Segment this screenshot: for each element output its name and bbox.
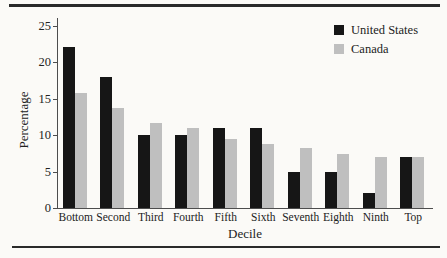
- legend-swatch-canada: [334, 44, 344, 54]
- y-tick-label: 5: [25, 165, 51, 179]
- bar-canada-bottom: [75, 93, 87, 208]
- bar-canada-fourth: [187, 128, 199, 208]
- bar-united-states-bottom: [63, 47, 75, 208]
- legend-label: United States: [351, 23, 418, 37]
- legend: United StatesCanada: [334, 23, 418, 61]
- bar-canada-fifth: [225, 139, 237, 208]
- bar-canada-third: [150, 123, 162, 208]
- x-axis-line: [57, 208, 433, 209]
- bar-canada-top: [412, 157, 424, 208]
- y-tick: [53, 26, 57, 27]
- bar-united-states-fifth: [213, 128, 225, 208]
- y-tick-label: 10: [25, 128, 51, 142]
- y-tick-label: 20: [25, 55, 51, 69]
- legend-item-canada: Canada: [334, 42, 418, 56]
- y-tick: [53, 99, 57, 100]
- bar-united-states-seventh: [288, 172, 300, 209]
- bar-canada-seventh: [300, 148, 312, 208]
- y-axis-line: [57, 18, 58, 208]
- bar-united-states-third: [138, 135, 150, 208]
- y-tick-label: 25: [25, 19, 51, 33]
- legend-swatch-united-states: [334, 25, 344, 35]
- legend-item-united-states: United States: [334, 23, 418, 37]
- bar-united-states-eighth: [325, 172, 337, 209]
- legend-label: Canada: [351, 42, 388, 56]
- x-axis-title: Decile: [57, 226, 433, 242]
- bar-chart-figure: Percentage Decile 0510152025BottomSecond…: [0, 0, 447, 258]
- bar-canada-ninth: [375, 157, 387, 208]
- top-rule: [9, 4, 440, 7]
- bar-canada-second: [112, 108, 124, 208]
- y-tick: [53, 135, 57, 136]
- bar-canada-eighth: [337, 154, 349, 208]
- x-tick-label-top: Top: [389, 211, 437, 224]
- bar-canada-sixth: [262, 144, 274, 208]
- y-tick: [53, 172, 57, 173]
- y-tick-label: 15: [25, 92, 51, 106]
- bar-united-states-top: [400, 157, 412, 208]
- y-tick: [53, 62, 57, 63]
- bar-united-states-second: [100, 77, 112, 208]
- bar-united-states-ninth: [363, 193, 375, 208]
- bar-united-states-fourth: [175, 135, 187, 208]
- bar-united-states-sixth: [250, 128, 262, 208]
- y-tick: [53, 208, 57, 209]
- bottom-rule: [12, 246, 440, 248]
- y-tick-label: 0: [25, 201, 51, 215]
